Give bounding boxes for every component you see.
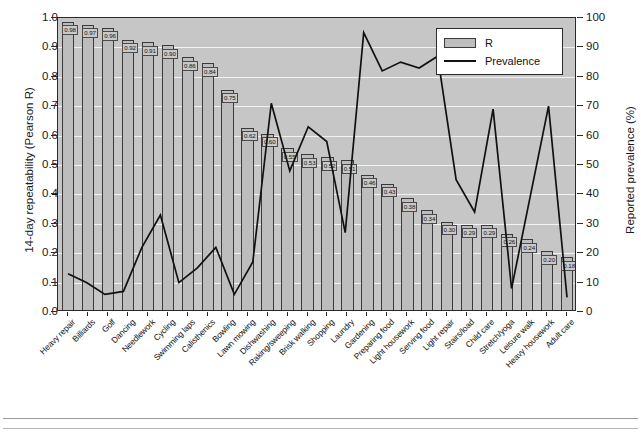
x-axis-tick-labels: Heavy repairBilliardsGolfDancingNeedlewo…	[57, 312, 576, 424]
y-axis-right-tick-label: 70	[586, 99, 620, 111]
y-axis-right-tick-label: 100	[586, 11, 620, 23]
y-axis-right-tick-label: 20	[586, 246, 620, 258]
x-axis-tick-mark	[127, 312, 128, 316]
legend-label-prevalence: Prevalence	[485, 55, 540, 67]
x-axis-tick-mark	[486, 312, 487, 316]
x-axis-tick-mark	[247, 312, 248, 316]
x-axis-tick-mark	[307, 312, 308, 316]
footer-rule-bottom	[3, 428, 638, 429]
y-axis-left-tick-mark	[51, 164, 57, 165]
y-axis-right-tick-label: 0	[586, 305, 620, 317]
y-axis-right-tick-label: 60	[586, 129, 620, 141]
y-axis-right-tick-mark	[577, 164, 583, 165]
x-axis-tick-mark	[187, 312, 188, 316]
x-axis-tick-mark	[526, 312, 527, 316]
y-axis-left-tick-mark	[51, 193, 57, 194]
y-axis-right-tick-mark	[577, 135, 583, 136]
x-axis-tick-mark	[566, 312, 567, 316]
legend-item-r: R	[444, 34, 555, 52]
x-axis-tick-mark	[406, 312, 407, 316]
legend-bar-swatch-icon	[444, 38, 476, 48]
legend-line-swatch-icon	[444, 60, 476, 62]
legend: R Prevalence	[436, 28, 563, 75]
y-axis-right-tick-mark	[577, 311, 583, 312]
x-axis-tick-mark	[546, 312, 547, 316]
legend-label-r: R	[485, 37, 493, 49]
x-axis-tick-mark	[107, 312, 108, 316]
y-axis-left-tick-mark	[51, 105, 57, 106]
x-axis-tick-mark	[207, 312, 208, 316]
y-axis-left-tick-mark	[51, 282, 57, 283]
x-axis-tick-mark	[426, 312, 427, 316]
y-axis-right-tick-mark	[577, 105, 583, 106]
x-axis-tick-mark	[287, 312, 288, 316]
x-axis-tick-mark	[87, 312, 88, 316]
y-axis-left-tick-mark	[51, 17, 57, 18]
x-axis-tick-mark	[267, 312, 268, 316]
y-axis-right-tick-label: 90	[586, 40, 620, 52]
x-axis-tick-mark	[346, 312, 347, 316]
legend-item-prevalence: Prevalence	[444, 52, 555, 70]
x-axis-tick-mark	[446, 312, 447, 316]
y-axis-left-tick-mark	[51, 311, 57, 312]
x-axis-tick-mark	[466, 312, 467, 316]
chart-figure: 14-day repeatability (Pearson R) Reporte…	[0, 0, 641, 432]
y-axis-left-tick-mark	[51, 252, 57, 253]
y-axis-left-tick-mark	[51, 223, 57, 224]
y-axis-right-tick-label: 30	[586, 217, 620, 229]
x-axis-tick-mark	[506, 312, 507, 316]
y-axis-right-tick-mark	[577, 46, 583, 47]
y-axis-right-tick-mark	[577, 76, 583, 77]
x-axis-tick-mark	[366, 312, 367, 316]
x-axis-tick-mark	[167, 312, 168, 316]
y-axis-right-tick-label: 40	[586, 187, 620, 199]
y-axis-right-tick-label: 80	[586, 70, 620, 82]
y-axis-right-tick-mark	[577, 193, 583, 194]
y-axis-right-tick-label: 50	[586, 158, 620, 170]
y-axis-right-tick-mark	[577, 282, 583, 283]
y-axis-left-tick-mark	[51, 46, 57, 47]
y-axis-right-title: Reported prevalence (%)	[624, 55, 636, 285]
y-axis-right-tick-mark	[577, 17, 583, 18]
x-axis-tick-mark	[227, 312, 228, 316]
y-axis-right-tick-label: 10	[586, 276, 620, 288]
footer-rule-top	[3, 418, 638, 419]
y-axis-left-tick-mark	[51, 76, 57, 77]
x-axis-tick-mark	[326, 312, 327, 316]
y-axis-left-tick-mark	[51, 135, 57, 136]
x-axis-tick-mark	[147, 312, 148, 316]
y-axis-right-tick-mark	[577, 252, 583, 253]
x-axis-tick-mark	[67, 312, 68, 316]
y-axis-right-tick-mark	[577, 223, 583, 224]
x-axis-tick-mark	[386, 312, 387, 316]
